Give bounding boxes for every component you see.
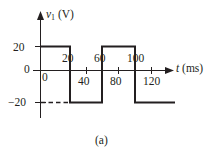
- y-axis-label: v1 (V): [46, 9, 74, 22]
- figure-caption: (a): [95, 135, 108, 147]
- y-tick-label-0: 0: [24, 64, 30, 76]
- x-tick-label-100: 100: [127, 53, 144, 65]
- x-axis: [33, 67, 174, 74]
- x-tick-label-60: 60: [94, 53, 106, 65]
- y-axis-unit-text: (V): [58, 8, 74, 20]
- x-tick-label-120: 120: [143, 76, 160, 88]
- x-axis-label: t (ms): [176, 63, 203, 75]
- origin-label: 0: [42, 72, 48, 84]
- y-tick-label-20: 20: [13, 42, 25, 54]
- x-tick-label-20: 20: [62, 53, 74, 65]
- figure-waveform-a: v1 (V) t (ms) 20 0 −20 0 20 60 100 40 80…: [0, 0, 208, 158]
- x-tick-label-40: 40: [78, 76, 90, 88]
- x-tick-label-80: 80: [110, 76, 122, 88]
- x-axis-unit-text: (ms): [182, 62, 203, 74]
- y-tick-label-minus-20: −20: [8, 97, 26, 109]
